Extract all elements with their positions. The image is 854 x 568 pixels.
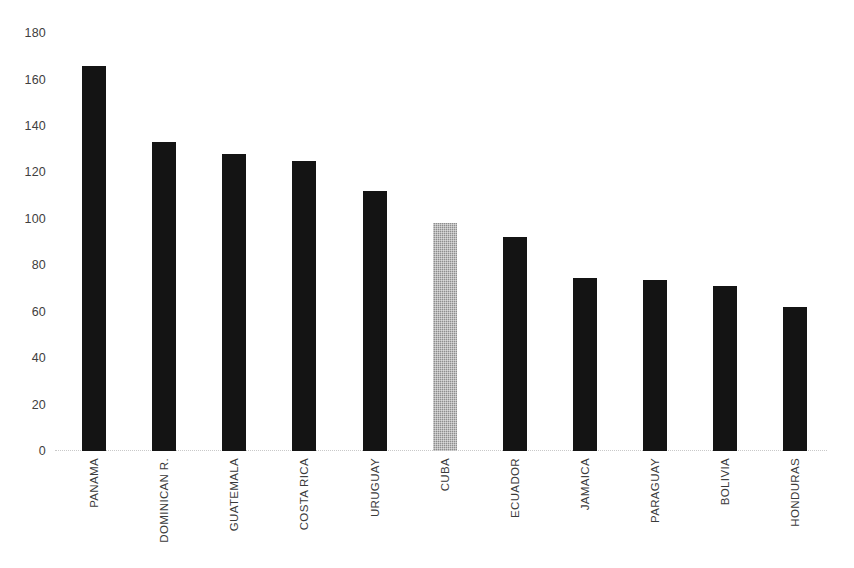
bar-dominican-r [152, 142, 176, 450]
bar-chart: 0 20 40 60 80 100 120 140 160 180 PANAMA… [0, 0, 854, 568]
y-axis-tick-label: 60 [0, 306, 46, 318]
y-axis-tick-label: 140 [0, 120, 46, 132]
bar-ecuador [503, 237, 527, 450]
x-axis-label-text: JAMAICA [579, 458, 591, 510]
x-axis-label-panama: PANAMA [82, 458, 106, 562]
bar-jamaica [573, 278, 597, 451]
bar-costa-rica [292, 161, 316, 451]
bar-bolivia [713, 286, 737, 451]
x-axis-label-uruguay: URUGUAY [363, 458, 387, 562]
bar-cuba [433, 223, 457, 450]
x-axis-label-cuba: CUBA [433, 458, 457, 562]
y-axis-tick-label: 0 [0, 445, 46, 457]
bar-uruguay [363, 191, 387, 451]
x-axis-label-costa-rica: COSTA RICA [292, 458, 316, 562]
x-axis-label-text: HONDURAS [789, 458, 801, 527]
x-axis-label-honduras: HONDURAS [783, 458, 807, 562]
y-axis-tick-label: 100 [0, 213, 46, 225]
y-axis-tick-label: 20 [0, 399, 46, 411]
x-axis-label-ecuador: ECUADOR [503, 458, 527, 562]
x-axis-label-text: BOLIVIA [719, 458, 731, 505]
bar-guatemala [222, 154, 246, 451]
bar-paraguay [643, 280, 667, 450]
x-axis-label-text: URUGUAY [369, 458, 381, 517]
x-axis-label-text: CUBA [439, 458, 451, 491]
y-axis-tick-label: 80 [0, 259, 46, 271]
x-axis-label-text: COSTA RICA [298, 458, 310, 530]
x-axis-label-text: PARAGUAY [649, 458, 661, 523]
x-axis-label-bolivia: BOLIVIA [713, 458, 737, 562]
x-axis-label-text: DOMINICAN R. [158, 458, 170, 543]
x-axis-label-dominican-r: DOMINICAN R. [152, 458, 176, 562]
x-axis-label-paraguay: PARAGUAY [643, 458, 667, 562]
bar-panama [82, 66, 106, 451]
x-axis-label-text: PANAMA [88, 458, 100, 508]
x-axis-label-text: GUATEMALA [228, 458, 240, 531]
plot-area: 0 20 40 60 80 100 120 140 160 180 PANAMA… [0, 0, 854, 568]
y-axis-tick-label: 160 [0, 74, 46, 86]
y-axis-tick-label: 120 [0, 166, 46, 178]
bar-honduras [783, 307, 807, 451]
x-axis-label-text: ECUADOR [509, 458, 521, 518]
x-axis-label-jamaica: JAMAICA [573, 458, 597, 562]
x-axis-label-guatemala: GUATEMALA [222, 458, 246, 562]
y-axis-tick-label: 40 [0, 352, 46, 364]
y-axis-tick-label: 180 [0, 27, 46, 39]
